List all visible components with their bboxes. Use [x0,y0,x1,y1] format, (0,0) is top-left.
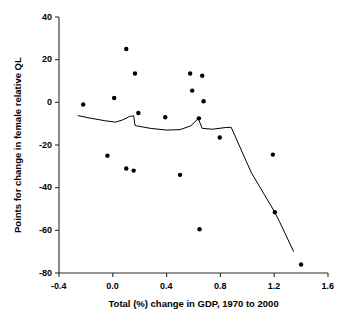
trend-polyline [78,116,294,252]
data-point-marker [124,166,128,170]
y-tick-label: -40 [39,183,52,192]
chart-figure: -0.40.00.40.81.21.6 40200-20-40-60-80 To… [0,0,350,326]
y-tick-label: 40 [42,13,52,22]
y-tick-label: -80 [39,269,52,278]
data-point-marker [201,99,205,103]
data-point-marker [273,210,277,214]
data-point-marker [299,262,303,266]
x-tick-label: -0.4 [51,282,67,291]
data-point-marker [136,111,140,115]
y-tick-label: 0 [47,98,52,107]
y-tick-label: -60 [39,226,52,235]
x-tick-label: 0.0 [106,282,119,291]
data-point-marker [200,73,204,77]
data-point-marker [112,96,116,100]
x-tick-label: 0.4 [160,282,173,291]
data-point-marker [131,168,135,172]
data-point-marker [163,115,167,119]
data-point-marker [218,135,222,139]
x-tick-label: 1.2 [268,282,281,291]
y-tick-label: 20 [42,55,52,64]
y-axis-label: Points for change in female relative QL [13,57,23,233]
data-point-marker [178,173,182,177]
data-point-marker [197,227,201,231]
y-tick-label: -20 [39,141,52,150]
data-point-marker [124,47,128,51]
data-point-marker [81,102,85,106]
scatter-plot [0,0,350,326]
data-points [81,47,303,267]
trend-line [78,116,294,252]
data-point-marker [271,152,275,156]
x-tick-label: 0.8 [214,282,227,291]
data-point-marker [188,71,192,75]
data-point-marker [197,116,201,120]
data-point-marker [105,153,109,157]
data-point-marker [133,71,137,75]
x-tick-label: 1.6 [322,282,335,291]
x-axis-label: Total (%) change in GDP, 1970 to 2000 [109,299,279,309]
data-point-marker [190,88,194,92]
